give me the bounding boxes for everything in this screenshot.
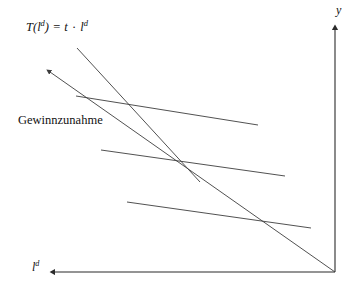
x-axis-sup: d bbox=[35, 259, 39, 268]
x-axis-label: ld bbox=[32, 261, 39, 273]
isoprofit-line-1 bbox=[76, 96, 258, 125]
tax-fn-name: T bbox=[26, 20, 33, 34]
tax-function-label: T(ld) = t · ld bbox=[26, 21, 88, 34]
tax-fn-cdot: · bbox=[68, 20, 80, 34]
diagram-canvas bbox=[0, 0, 364, 291]
figure-container: T(ld) = t · ld Gewinnzunahme y ld bbox=[0, 0, 364, 291]
isoprofit-line-3 bbox=[127, 202, 311, 228]
profit-increase-label: Gewinnzunahme bbox=[18, 114, 103, 127]
tax-fn-equals: = bbox=[49, 20, 64, 34]
profit-direction-arrow bbox=[50, 72, 335, 272]
y-axis-label: y bbox=[336, 4, 341, 16]
tax-fn-sup-d-2: d bbox=[84, 18, 88, 28]
